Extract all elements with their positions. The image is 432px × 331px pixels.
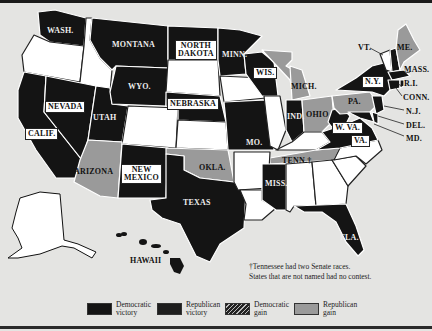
label-calif: CALIF.: [25, 128, 58, 140]
label-me: ME.: [397, 44, 413, 52]
state-hawaii: [116, 232, 184, 274]
state-florida: [294, 204, 364, 256]
legend-label: victory: [186, 309, 220, 317]
footnote-no-contest: States that are not named had no contest…: [249, 272, 371, 282]
label-conn: CONN.: [403, 94, 430, 102]
footnote-tennessee: †Tennessee had two Senate races.: [249, 262, 371, 272]
label-pa: PA.: [348, 98, 361, 106]
label-nevada: NEVADA: [45, 101, 85, 113]
label-mich: MICH.: [291, 83, 317, 91]
label-vt: VT.: [358, 44, 371, 52]
label-ny: N.Y.: [362, 76, 384, 88]
footnote: †Tennessee had two Senate races. States …: [249, 262, 371, 282]
state-south-dakota: [166, 60, 220, 96]
label-wash: WASH.: [47, 27, 74, 35]
label-ind: IND.: [287, 113, 304, 121]
label-north-dakota: NORTH DAKOTA: [175, 40, 217, 60]
label-miss: MISS.: [265, 180, 288, 188]
label-okla: OKLA.: [199, 164, 226, 172]
label-ri: R.I.: [404, 80, 418, 88]
label-wva: W. VA.: [332, 122, 363, 134]
swatch-republican-gain: [294, 303, 319, 315]
label-arizona: ARIZONA: [74, 168, 113, 176]
swatch-democratic-victory: [87, 303, 112, 315]
label-ohio: OHIO: [306, 111, 329, 119]
legend-democratic-gain: Democraticgain: [225, 301, 289, 317]
label-nebraska: NEBRASKA: [167, 98, 219, 110]
legend-republican-gain: Republicangain: [294, 301, 357, 317]
state-kansas: [176, 120, 228, 150]
swatch-republican-victory: [157, 303, 182, 315]
swatch-democratic-gain: [225, 303, 250, 315]
label-del: DEL.: [406, 122, 425, 130]
label-hawaii: HAWAII: [130, 257, 161, 265]
label-tenn: TENN.†: [282, 157, 311, 165]
label-texas: TEXAS: [183, 199, 211, 207]
label-mo: MO.: [246, 139, 262, 147]
label-utah: UTAH: [93, 114, 116, 122]
label-nj: N.J.: [406, 108, 421, 116]
label-va: VA.: [351, 135, 370, 147]
bottom-rule: [0, 326, 432, 329]
state-alabama: [286, 162, 316, 212]
label-wyo: WYO.: [128, 83, 151, 91]
label-fla: FLA.: [340, 234, 359, 242]
label-md: MD.: [406, 135, 422, 143]
label-wis: WIS.: [253, 67, 277, 79]
state-connecticut: [388, 80, 400, 90]
label-north-dakota-line2: DAKOTA: [178, 50, 214, 58]
state-colorado: [122, 106, 178, 148]
label-montana: MONTANA: [112, 41, 155, 49]
legend-republican-victory: Republicanvictory: [157, 301, 220, 317]
label-new-mexico-line2: MEXICO: [124, 174, 159, 182]
label-minn: MINN.: [222, 51, 247, 59]
legend-democratic-victory: Democraticvictory: [87, 301, 151, 317]
legend-label: gain: [254, 309, 289, 317]
label-new-mexico: NEW MEXICO: [121, 164, 162, 184]
legend-label: gain: [323, 309, 357, 317]
state-alaska: [8, 192, 96, 258]
label-mass: MASS.: [404, 66, 429, 74]
state-new-jersey: [372, 96, 384, 114]
legend-label: victory: [116, 309, 151, 317]
